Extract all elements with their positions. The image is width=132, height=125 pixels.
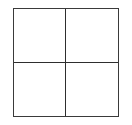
grid-cell-bottom-right — [66, 63, 118, 117]
diagram-canvas — [0, 0, 132, 125]
two-by-two-grid — [13, 8, 119, 117]
grid-cell-top-left — [14, 9, 66, 63]
grid-cell-bottom-left — [14, 63, 66, 117]
grid-cell-top-right — [66, 9, 118, 63]
